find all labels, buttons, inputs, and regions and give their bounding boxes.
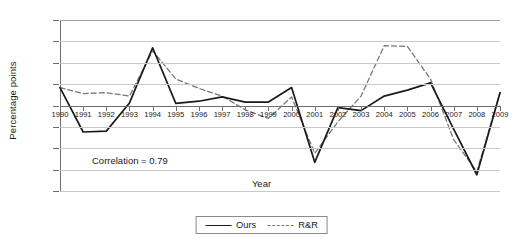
gridline bbox=[60, 106, 500, 107]
x-axis-tick-label: 1998 bbox=[234, 111, 256, 119]
correlation-annotation: Correlation = 0.79 bbox=[92, 155, 168, 166]
legend-swatch-solid-icon bbox=[205, 225, 231, 226]
x-axis-tick-label: 1991 bbox=[72, 111, 94, 119]
x-axis-tick-label: 2002 bbox=[327, 111, 349, 119]
y-axis-tick bbox=[53, 148, 59, 149]
x-axis-tick-label: 2004 bbox=[373, 111, 395, 119]
gridline bbox=[60, 20, 500, 21]
x-axis-tick-label: 1990 bbox=[49, 111, 71, 119]
x-axis-tick-label: 1995 bbox=[165, 111, 187, 119]
legend-label-ours: Ours bbox=[236, 220, 256, 230]
legend-item-ours: Ours bbox=[205, 220, 256, 230]
gridline bbox=[60, 148, 500, 149]
y-axis-tick bbox=[53, 106, 59, 107]
x-axis-tick-label: 1996 bbox=[188, 111, 210, 119]
gridline bbox=[60, 84, 500, 85]
y-axis-label: Percentage points bbox=[2, 40, 22, 160]
x-axis-tick-label: 1994 bbox=[142, 111, 164, 119]
x-axis-tick-label: 2005 bbox=[396, 111, 418, 119]
legend-label-rr: R&R bbox=[298, 220, 318, 230]
legend-swatch-dashed-icon bbox=[267, 225, 293, 226]
x-axis-tick-label: 1999 bbox=[257, 111, 279, 119]
x-axis-tick-label: 1993 bbox=[118, 111, 140, 119]
x-axis-tick-label: 2008 bbox=[466, 111, 488, 119]
y-axis-tick bbox=[53, 63, 59, 64]
gridline bbox=[60, 63, 500, 64]
series-line-r-r bbox=[60, 46, 500, 172]
y-axis-tick bbox=[53, 127, 59, 128]
y-axis-tick bbox=[53, 170, 59, 171]
chart-container: Percentage points 21.510.50-0.5-1-1.5-2 … bbox=[0, 0, 523, 251]
y-axis-tick bbox=[53, 191, 59, 192]
x-axis-tick-label: 1997 bbox=[211, 111, 233, 119]
y-axis-tick bbox=[53, 84, 59, 85]
chart-legend: Ours R&R bbox=[195, 216, 328, 234]
x-axis-tick-label: 2000 bbox=[281, 111, 303, 119]
x-axis-tick-label: 2001 bbox=[304, 111, 326, 119]
x-axis-tick-label: 2009 bbox=[489, 111, 511, 119]
x-axis-tick-label: 2007 bbox=[443, 111, 465, 119]
x-axis-label: Year bbox=[0, 178, 523, 189]
x-axis-tick-label: 2003 bbox=[350, 111, 372, 119]
gridline bbox=[60, 41, 500, 42]
gridline bbox=[60, 170, 500, 171]
legend-item-rr: R&R bbox=[267, 220, 318, 230]
y-axis-tick bbox=[53, 41, 59, 42]
y-axis-tick bbox=[53, 20, 59, 21]
gridline bbox=[60, 127, 500, 128]
x-axis-tick-label: 1992 bbox=[95, 111, 117, 119]
x-axis-tick-label: 2006 bbox=[420, 111, 442, 119]
gridline bbox=[60, 191, 500, 192]
